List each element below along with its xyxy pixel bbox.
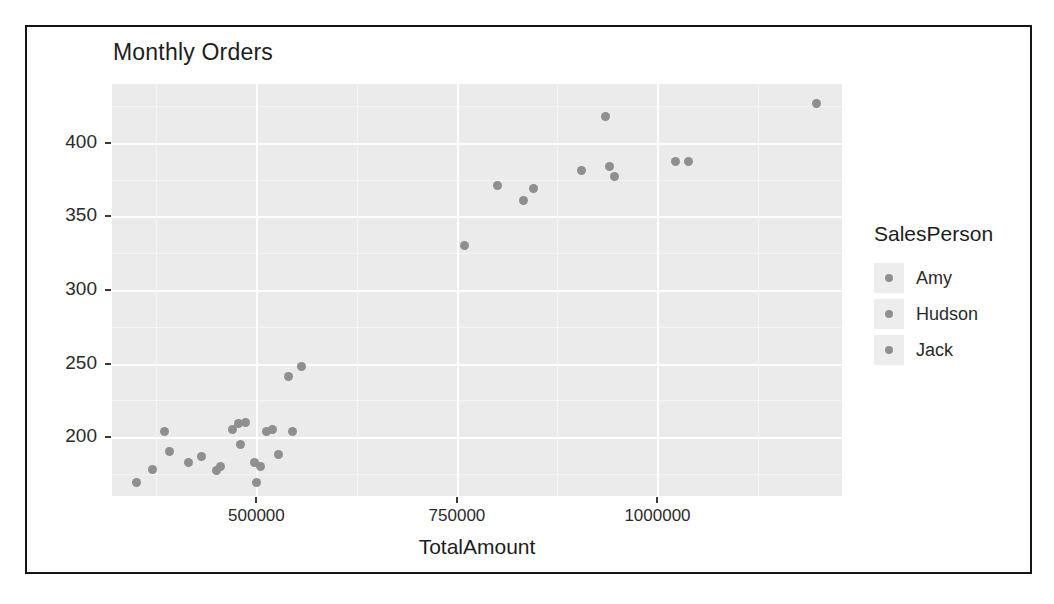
gridline-minor-horizontal <box>112 474 842 475</box>
data-point <box>297 362 306 371</box>
y-tick-mark <box>105 289 111 291</box>
y-tick-label: 250 <box>27 352 97 374</box>
data-point <box>460 241 469 250</box>
gridline-minor-vertical <box>357 84 358 496</box>
x-tick-mark <box>656 497 658 503</box>
gridline-minor-horizontal <box>112 400 842 401</box>
data-point <box>165 447 174 456</box>
gridline-minor-vertical <box>557 84 558 496</box>
y-tick-mark <box>105 215 111 217</box>
data-point <box>274 450 283 459</box>
gridline-minor-vertical <box>758 84 759 496</box>
legend-key-swatch <box>874 335 904 365</box>
legend-title: SalesPerson <box>874 222 1024 246</box>
data-point <box>241 418 250 427</box>
gridline-major-horizontal <box>112 143 842 145</box>
data-point <box>812 99 821 108</box>
data-point <box>519 196 528 205</box>
x-axis-title: TotalAmount <box>112 535 842 559</box>
y-tick-mark <box>105 436 111 438</box>
x-tick-mark <box>255 497 257 503</box>
page-frame: Monthly Orders OrderCount 20025030035040… <box>25 25 1032 574</box>
gridline-minor-horizontal <box>112 253 842 254</box>
gridline-major-horizontal <box>112 216 842 218</box>
data-point <box>684 157 693 166</box>
plot-panel <box>112 84 842 496</box>
x-tick-label: 750000 <box>397 506 517 526</box>
data-point <box>256 462 265 471</box>
data-point <box>605 162 614 171</box>
y-tick-mark <box>105 363 111 365</box>
data-point <box>197 452 206 461</box>
data-point <box>252 478 261 487</box>
gridline-major-horizontal <box>112 290 842 292</box>
data-point <box>148 465 157 474</box>
legend-item-label: Jack <box>916 340 953 361</box>
legend-entries: AmyHudsonJack <box>874 260 1024 368</box>
chart-figure: Monthly Orders OrderCount 20025030035040… <box>27 27 1034 576</box>
legend-key-swatch <box>874 263 904 293</box>
data-point <box>284 372 293 381</box>
y-tick-label: 200 <box>27 425 97 447</box>
y-axis-title: OrderCount <box>0 149 3 259</box>
legend-item-jack: Jack <box>874 332 1024 368</box>
gridline-major-horizontal <box>112 364 842 366</box>
y-tick-mark <box>105 142 111 144</box>
data-point <box>184 458 193 467</box>
legend-dot-icon <box>885 310 893 318</box>
legend-item-label: Amy <box>916 268 952 289</box>
gridline-minor-vertical <box>156 84 157 496</box>
data-point <box>601 112 610 121</box>
gridline-major-horizontal <box>112 437 842 439</box>
gridline-minor-horizontal <box>112 180 842 181</box>
gridline-minor-horizontal <box>112 327 842 328</box>
legend-dot-icon <box>885 346 893 354</box>
gridline-major-vertical <box>657 84 659 496</box>
legend-item-hudson: Hudson <box>874 296 1024 332</box>
legend: SalesPerson AmyHudsonJack <box>874 222 1024 368</box>
data-point <box>160 427 169 436</box>
y-tick-label: 350 <box>27 204 97 226</box>
data-point <box>236 440 245 449</box>
chart-title: Monthly Orders <box>113 39 273 66</box>
x-tick-label: 500000 <box>196 506 316 526</box>
x-tick-mark <box>456 497 458 503</box>
legend-key-swatch <box>874 299 904 329</box>
y-tick-label: 400 <box>27 131 97 153</box>
gridline-minor-horizontal <box>112 106 842 107</box>
data-point <box>577 166 586 175</box>
legend-item-amy: Amy <box>874 260 1024 296</box>
data-point <box>529 184 538 193</box>
legend-item-label: Hudson <box>916 304 978 325</box>
legend-dot-icon <box>885 274 893 282</box>
data-point <box>288 427 297 436</box>
data-point <box>132 478 141 487</box>
gridline-major-vertical <box>457 84 459 496</box>
data-point <box>268 425 277 434</box>
data-point <box>671 157 680 166</box>
x-tick-label: 1000000 <box>597 506 717 526</box>
gridline-major-vertical <box>256 84 258 496</box>
data-point <box>493 181 502 190</box>
y-tick-label: 300 <box>27 278 97 300</box>
